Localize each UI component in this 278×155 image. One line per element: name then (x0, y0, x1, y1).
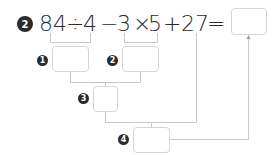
step-badge-4: 4 (118, 134, 129, 145)
answer-box[interactable] (231, 8, 267, 35)
expression-token: + (163, 11, 181, 37)
expression-token: 84 (39, 11, 67, 37)
expression-token: 27 (181, 11, 209, 37)
step-box-3[interactable] (93, 86, 118, 112)
expression-token: − (100, 11, 118, 37)
step-box-4[interactable] (133, 127, 170, 153)
step-box-1[interactable] (52, 46, 89, 72)
expression-token: ÷ (66, 11, 84, 37)
expression-token: 5 (148, 11, 162, 37)
step-badge-3: 3 (78, 93, 89, 104)
step-badge-1: 1 (37, 55, 48, 66)
expression-token: = (207, 11, 225, 37)
step-box-2[interactable] (122, 46, 159, 72)
step-badge-2: 2 (107, 55, 118, 66)
problem-number-badge: 2 (17, 16, 33, 32)
expression-token: 4 (83, 11, 97, 37)
expression-token: 3 (117, 11, 131, 37)
